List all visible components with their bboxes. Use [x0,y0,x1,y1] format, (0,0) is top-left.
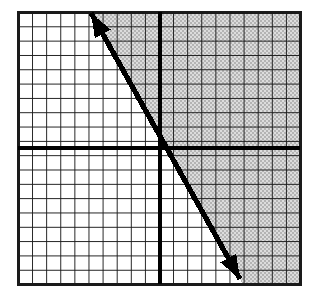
coordinate-plane [0,0,314,286]
graph-figure [0,0,314,286]
